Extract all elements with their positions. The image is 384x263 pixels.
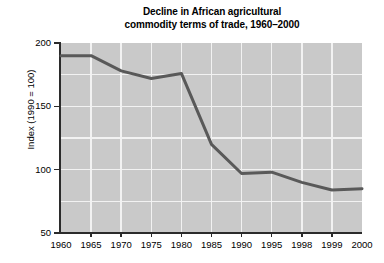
y-tick-mark bbox=[54, 232, 60, 234]
gridline-vertical bbox=[181, 43, 183, 233]
x-tick-mark bbox=[331, 232, 333, 237]
y-tick-label: 50 bbox=[11, 228, 51, 238]
y-tick-mark bbox=[54, 42, 60, 44]
x-tick-mark bbox=[301, 232, 303, 237]
x-tick-mark bbox=[181, 232, 183, 237]
x-tick-mark bbox=[151, 232, 153, 237]
x-tick-mark bbox=[241, 232, 243, 237]
y-tick-label: 100 bbox=[11, 165, 51, 175]
gridline-vertical bbox=[241, 43, 243, 233]
gridline-vertical bbox=[301, 43, 303, 233]
gridline-vertical bbox=[120, 43, 122, 233]
chart-title-line-2: commodity terms of trade, 1960–2000 bbox=[62, 19, 362, 32]
gridline-vertical bbox=[331, 43, 333, 233]
x-tick-mark bbox=[90, 232, 92, 237]
y-tick-mark bbox=[54, 169, 60, 171]
gridline-vertical bbox=[90, 43, 92, 233]
y-tick-mark bbox=[54, 106, 60, 108]
x-tick-label: 2000 bbox=[340, 240, 384, 250]
chart-title: Decline in African agricultural commodit… bbox=[62, 6, 362, 31]
x-tick-mark bbox=[120, 232, 122, 237]
gridline-vertical bbox=[211, 43, 213, 233]
x-tick-mark bbox=[271, 232, 273, 237]
x-tick-mark bbox=[211, 232, 213, 237]
gridline-vertical bbox=[271, 43, 273, 233]
y-tick-label: 150 bbox=[11, 101, 51, 111]
chart-figure: Decline in African agricultural commodit… bbox=[0, 0, 384, 263]
chart-title-line-1: Decline in African agricultural bbox=[62, 6, 362, 19]
gridline-vertical bbox=[151, 43, 153, 233]
y-tick-label: 200 bbox=[11, 38, 51, 48]
